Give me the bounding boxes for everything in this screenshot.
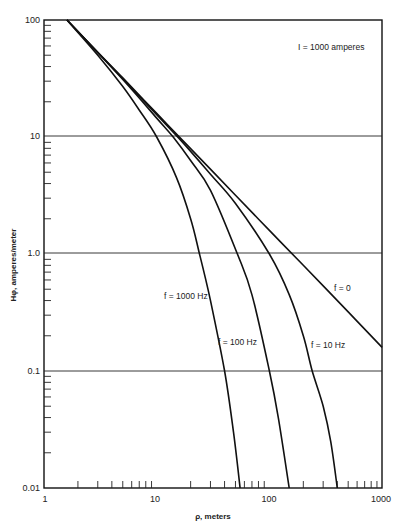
current-annotation: I = 1000 amperes xyxy=(298,42,364,52)
x-tick-10: 10 xyxy=(150,494,160,504)
y-tick-0.01: 0.01 xyxy=(22,483,40,493)
curve-f1000 xyxy=(67,20,240,488)
curve-f100 xyxy=(67,20,289,488)
y-tick-10: 10 xyxy=(30,131,40,141)
chart-canvas: 100 10 1.0 0.1 0.01 1 10 100 1000 ρ, met… xyxy=(0,0,406,532)
curves xyxy=(67,20,382,488)
x-axis-tick-labels: 1 10 100 1000 xyxy=(42,494,391,504)
plot-frame xyxy=(44,20,382,488)
x-tick-100: 100 xyxy=(261,494,276,504)
x-axis-minor-ticks xyxy=(78,481,377,488)
x-tick-1000: 1000 xyxy=(371,494,391,504)
label-f10: f = 10 Hz xyxy=(311,340,345,350)
y-tick-100: 100 xyxy=(25,15,40,25)
curve-f10 xyxy=(67,20,337,488)
label-f100: f = 100 Hz xyxy=(218,337,257,347)
y-tick-1: 1.0 xyxy=(27,248,40,258)
y-axis-minor-ticks xyxy=(44,25,51,452)
y-tick-0.1: 0.1 xyxy=(27,366,40,376)
x-tick-1: 1 xyxy=(42,494,47,504)
label-f0: f = 0 xyxy=(334,283,351,293)
y-axis-tick-labels: 100 10 1.0 0.1 0.01 xyxy=(22,15,40,493)
y-axis-title: Hφ, amperes/meter xyxy=(9,229,18,302)
label-f1000: f = 1000 Hz xyxy=(164,291,208,301)
x-axis-title: ρ, meters xyxy=(195,512,231,521)
